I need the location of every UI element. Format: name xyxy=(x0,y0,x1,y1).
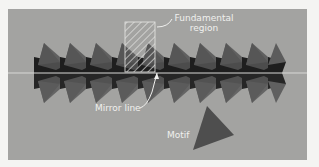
motif-triangle xyxy=(193,106,234,150)
mirror-line-label: Mirror line xyxy=(95,103,141,113)
fundamental-region-label-line1: Fundamental xyxy=(173,13,235,23)
fundamental-region-leader xyxy=(157,19,172,27)
fundamental-region-label: Fundamental region xyxy=(173,13,235,33)
motif-label: Motif xyxy=(167,130,189,140)
fundamental-region-label-line2: region xyxy=(173,23,235,33)
fundamental-region xyxy=(125,22,155,72)
frieze-pattern xyxy=(0,0,319,167)
